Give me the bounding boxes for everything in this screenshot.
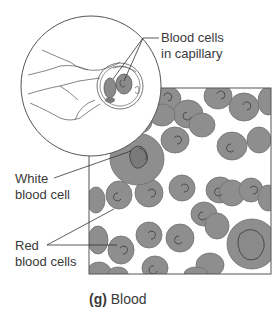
label-line: White: [15, 171, 70, 187]
label-line: blood cells: [15, 254, 76, 270]
label-line: in capillary: [161, 46, 224, 62]
figure-caption: (g) Blood: [89, 291, 147, 307]
capillary-magnifier: [21, 16, 161, 156]
label-white-blood-cell: White blood cell: [15, 171, 70, 203]
caption-letter: (g): [89, 291, 107, 307]
caption-text: Blood: [111, 291, 147, 307]
label-line: Blood cells: [161, 30, 224, 46]
label-line: blood cell: [15, 187, 70, 203]
label-red-blood-cells: Red blood cells: [15, 238, 76, 270]
label-line: Red: [15, 238, 76, 254]
label-blood-cells-in-capillary: Blood cells in capillary: [161, 30, 224, 62]
